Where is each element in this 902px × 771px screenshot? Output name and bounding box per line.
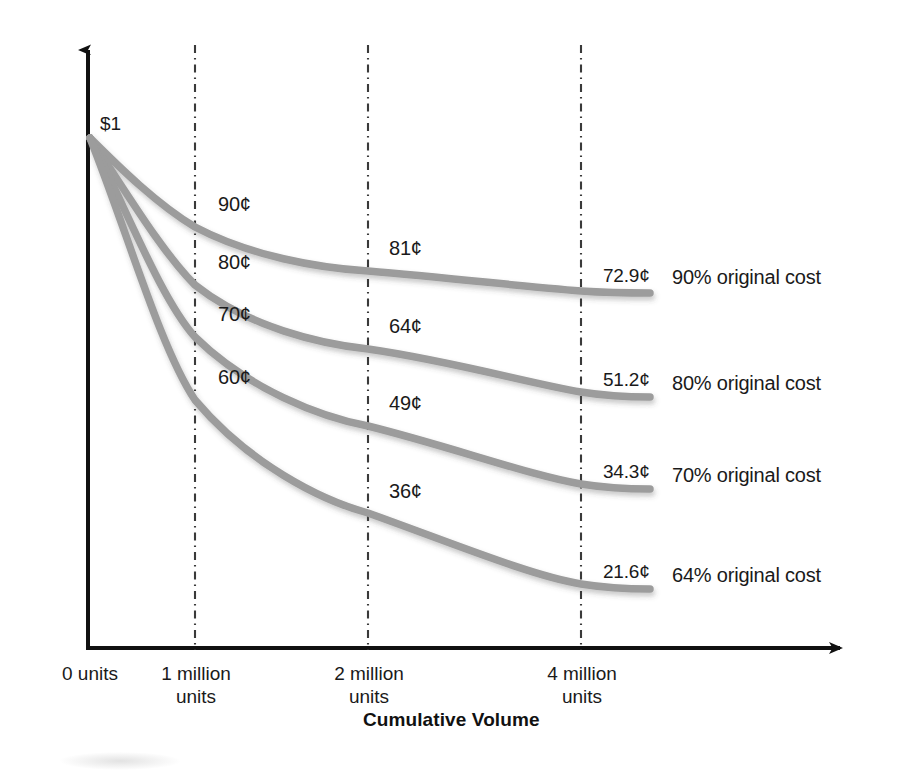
xtick-4m-line1: 4 million [526, 662, 638, 685]
xtick-1m-line2: units [140, 685, 252, 708]
curve-90-percent [90, 138, 650, 293]
curve-label-81c-at-2m: 81¢ [389, 237, 422, 260]
curve-label-34-3c-at-4m: 34.3¢ [603, 461, 650, 483]
curve-label-51-2c-at-4m: 51.2¢ [603, 369, 650, 391]
curve-label-21-6c-at-4m: 21.6¢ [603, 561, 650, 583]
xtick-4m-line2: units [526, 685, 638, 708]
xtick-2m-line1: 2 million [313, 662, 425, 685]
x-axis-title: Cumulative Volume [363, 709, 540, 731]
origin-value-label: $1 [100, 113, 121, 135]
curve-label-80c-at-1m: 80¢ [218, 251, 251, 274]
curve-label-49c-at-2m: 49¢ [389, 392, 422, 415]
xtick-label-4-million-units: 4 million units [526, 662, 638, 708]
xtick-2m-line2: units [313, 685, 425, 708]
curve-label-72-9c-at-4m: 72.9¢ [603, 265, 650, 287]
curve-label-90c-at-1m: 90¢ [218, 193, 251, 216]
xtick-1m-line1: 1 million [140, 662, 252, 685]
series-label-80-percent: 80% original cost [672, 372, 821, 395]
curve-64-percent [90, 138, 650, 589]
page-scan-smudge [60, 752, 180, 770]
series-label-64-percent: 64% original cost [672, 564, 821, 587]
chart-page: $1 90¢ 80¢ 70¢ 60¢ 81¢ 64¢ 49¢ 36¢ 72.9¢… [0, 0, 902, 771]
curve-70-percent [90, 138, 650, 489]
xtick-label-1-million-units: 1 million units [140, 662, 252, 708]
series-label-90-percent: 90% original cost [672, 266, 821, 289]
curve-label-64c-at-2m: 64¢ [389, 315, 422, 338]
curve-label-70c-at-1m: 70¢ [218, 303, 251, 326]
curve-label-60c-at-1m: 60¢ [218, 366, 251, 389]
xtick-label-2-million-units: 2 million units [313, 662, 425, 708]
series-label-70-percent: 70% original cost [672, 464, 821, 487]
curve-label-36c-at-2m: 36¢ [389, 480, 422, 503]
